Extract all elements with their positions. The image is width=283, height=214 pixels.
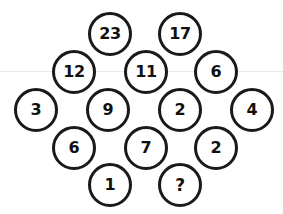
puzzle-canvas: 23171211639246721? (0, 0, 283, 214)
cell-11: 11 (124, 50, 168, 94)
cell-4: 4 (230, 88, 274, 132)
cell-unknown-label: ? (175, 177, 185, 194)
cell-6-top-label: 6 (211, 64, 222, 80)
cell-7: 7 (124, 126, 168, 170)
cell-3: 3 (14, 88, 58, 132)
cell-6-bottom: 6 (52, 126, 96, 170)
cell-2-middle-label: 2 (175, 102, 186, 118)
cell-9: 9 (86, 88, 130, 132)
cell-11-label: 11 (135, 64, 157, 80)
cell-6-top: 6 (194, 50, 238, 94)
cell-2-middle: 2 (158, 88, 202, 132)
cell-3-label: 3 (31, 102, 42, 118)
cell-17-label: 17 (169, 26, 191, 42)
cell-6-bottom-label: 6 (69, 140, 80, 156)
cell-unknown: ? (158, 163, 202, 207)
cell-9-label: 9 (103, 102, 114, 118)
cell-4-label: 4 (247, 102, 258, 118)
cell-12-label: 12 (63, 64, 85, 80)
cell-1: 1 (88, 163, 132, 207)
cell-23-label: 23 (99, 26, 121, 42)
cell-12: 12 (52, 50, 96, 94)
cell-2-bottom-label: 2 (211, 140, 222, 156)
cell-2-bottom: 2 (194, 126, 238, 170)
cell-17: 17 (158, 12, 202, 56)
cell-1-label: 1 (105, 177, 116, 193)
cell-7-label: 7 (141, 140, 152, 156)
cell-23: 23 (88, 12, 132, 56)
